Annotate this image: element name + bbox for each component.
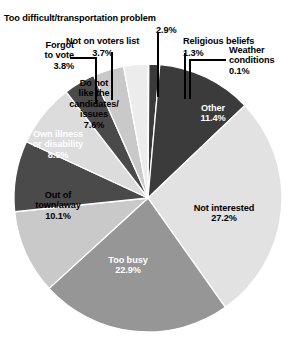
slice-label-not-interested: Not interested 27.2% [178, 203, 270, 224]
callout-not-on-voters-list-label: Not on voters list [66, 36, 139, 46]
slice-label-too-busy: Too busy 22.9% [92, 255, 164, 276]
pie-chart: Too difficult/transportation problem 2.9… [0, 0, 292, 342]
callout-not-on-voters-list-value: 3.7% [66, 48, 139, 58]
slice-label-other: Other 11.4% [186, 103, 240, 124]
slice-label-own-illness-or-disability: Own illness or disability 8.5% [16, 129, 100, 160]
slice-label-out-of-town-away: Out of town/away 10.1% [22, 190, 94, 221]
callout-too-difficult-label: Too difficult/transportation problem [4, 13, 156, 23]
callout-too-difficult-value: 2.9% [156, 25, 177, 35]
callout-weather-conditions: Weather conditions 0.1% [229, 45, 274, 76]
callout-forgot-to-vote: Forgot to vote 3.8% [22, 40, 74, 71]
slice-label-do-not-like-candidates: Do not like the candidates/ issues 7.6% [62, 78, 126, 130]
callout-not-on-voters-list: Not on voters list 3.7% [66, 26, 139, 68]
